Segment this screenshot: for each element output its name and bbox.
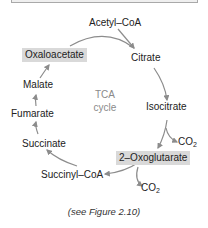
arrow-fumarate-malate <box>36 95 37 106</box>
node-malate: Malate <box>23 79 53 91</box>
node-acetyl-coa: Acetyl–CoA <box>89 17 141 29</box>
node-succinyl-coa: Succinyl–CoA <box>41 169 103 181</box>
node-oxaloacetate: Oxaloacetate <box>22 48 87 62</box>
figure-caption: (see Figure 2.10) <box>0 206 208 217</box>
arrow-malate-oxaloacetate <box>40 65 49 78</box>
arrow-succinate-fumarate <box>36 122 38 134</box>
node-succinate: Succinate <box>22 138 66 150</box>
node-fumarate: Fumarate <box>11 108 54 120</box>
arrow-co2-release-1 <box>166 128 177 142</box>
co2-1-subscript: 2 <box>193 141 197 148</box>
arrow-oxaloacetate-citrate <box>70 36 134 48</box>
arrow-acetylcoa-citrate <box>118 29 134 48</box>
cycle-center-line-1: TCA <box>90 88 120 101</box>
byproduct-co2-2: CO2 <box>141 182 160 197</box>
node-citrate: Citrate <box>131 52 160 64</box>
arrow-citrate-isocitrate <box>154 68 167 100</box>
arrow-succinylcoa-succinate <box>47 150 77 166</box>
arrow-isocitrate-oxoglutarate <box>158 120 167 148</box>
co2-1-text: CO <box>178 136 193 147</box>
byproduct-co2-1: CO2 <box>178 136 197 151</box>
node-2-oxoglutarate: 2–Oxoglutarate <box>116 151 190 165</box>
node-isocitrate: Isocitrate <box>146 101 187 113</box>
co2-2-text: CO <box>141 182 156 193</box>
cycle-center-line-2: cycle <box>90 101 120 114</box>
cycle-center-label: TCA cycle <box>90 88 120 114</box>
co2-2-subscript: 2 <box>156 187 160 194</box>
